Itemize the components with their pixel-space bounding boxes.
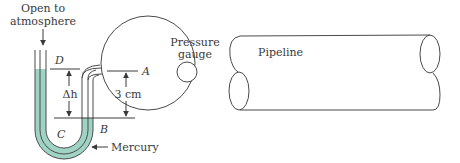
distance-label: 3 cm (114, 88, 142, 101)
gauge-label-line2: gauge (178, 48, 212, 61)
point-c-label: C (57, 128, 66, 141)
open-to-label-line1: Open to (21, 2, 66, 15)
delta-h-label: Δh (62, 88, 77, 101)
pressure-gauge-icon (177, 62, 197, 82)
point-a-label: A (141, 65, 150, 78)
point-d-label: D (54, 54, 64, 67)
open-to-label-line2: atmosphere (10, 15, 76, 28)
point-b-label: B (99, 123, 108, 136)
pipeline-label: Pipeline (258, 46, 303, 59)
manometer-diagram: Open to atmosphere Pressure gauge Δh 3 c… (0, 0, 460, 163)
mercury-label: Mercury (111, 141, 160, 154)
